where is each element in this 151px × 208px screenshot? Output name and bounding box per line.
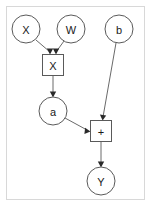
node-input-b[interactable]: b bbox=[105, 15, 133, 43]
node-label-intermediate-a: a bbox=[50, 106, 57, 118]
node-op-add[interactable]: + bbox=[91, 121, 112, 142]
node-op-multiply[interactable]: X bbox=[43, 55, 64, 76]
node-input-w[interactable]: W bbox=[57, 15, 85, 43]
node-intermediate-a[interactable]: a bbox=[39, 97, 67, 125]
node-label-op-add: + bbox=[98, 126, 104, 138]
node-label-input-x: X bbox=[22, 24, 30, 36]
node-label-op-multiply: X bbox=[49, 60, 57, 72]
node-input-x[interactable]: X bbox=[12, 15, 40, 43]
computational-graph-diagram: X W b X a + Y bbox=[0, 0, 151, 208]
node-label-output-y: Y bbox=[97, 176, 105, 188]
node-label-input-b: b bbox=[116, 24, 122, 36]
node-label-input-w: W bbox=[66, 24, 77, 36]
node-output-y[interactable]: Y bbox=[87, 167, 115, 195]
